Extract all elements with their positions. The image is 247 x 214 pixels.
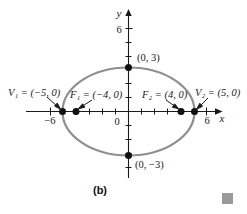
label-focus-2: F₂ = (4, 0) xyxy=(141,89,188,101)
label-vertex-2: V₂ = (5, 0) xyxy=(195,87,241,99)
leader-head-focus-1 xyxy=(78,104,85,109)
label-vertex-1: V₁ = (−5, 0) xyxy=(8,87,61,99)
label-co-vertex-top: (0, 3) xyxy=(137,52,160,64)
x-tick-label-neg6: −6 xyxy=(44,115,55,126)
y-tick-label-6: 6 xyxy=(116,24,121,35)
x-axis-label: x xyxy=(219,112,225,124)
x-tick-label-6: 6 xyxy=(204,115,209,126)
y-axis-arrowhead xyxy=(125,9,131,16)
point-co-vertex-top xyxy=(125,64,132,71)
ellipse-figure: y x 6 −6 6 0 V₁ = (−5, 0) F₁ = (−4, 0) F… xyxy=(0,0,247,214)
figure-caption: (b) xyxy=(0,184,200,196)
corner-marker-square xyxy=(222,193,233,204)
origin-label: 0 xyxy=(114,116,119,127)
label-co-vertex-bottom: (0, −3) xyxy=(135,159,164,171)
leader-head-vertex-1 xyxy=(55,103,61,109)
label-focus-1: F₁ = (−4, 0) xyxy=(69,89,123,101)
point-co-vertex-bottom xyxy=(125,152,132,159)
y-axis-label: y xyxy=(116,7,122,19)
graph-canvas: y x 6 −6 6 0 V₁ = (−5, 0) F₁ = (−4, 0) F… xyxy=(0,0,247,214)
